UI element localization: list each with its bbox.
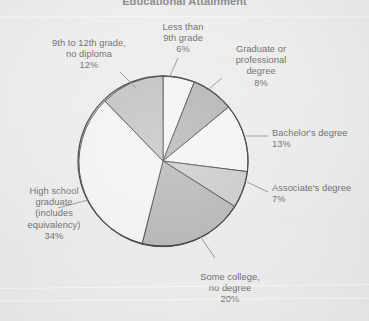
slice-label-graduate-or-professional-degree: Graduate or professional degree 8%: [218, 44, 304, 89]
slice-label-less-than-9th-grade: Less than 9th grade 6%: [144, 22, 222, 56]
leader-line-less-than-9th-grade: [170, 58, 178, 76]
slice-label-high-school-graduate: High school graduate (includes equivalen…: [8, 186, 100, 242]
leader-line-some-college: [200, 236, 215, 258]
slice-label-associates-degree: Associate's degree 7%: [272, 183, 366, 205]
slice-label-bachelors-degree: Bachelor's degree 13%: [272, 128, 364, 150]
slice-label-some-college-no-degree: Some college, no degree 20%: [178, 272, 282, 306]
leader-line-associates: [247, 182, 268, 192]
slice-label-9th-to-12th-grade-no-diploma: 9th to 12th grade, no diploma 12%: [38, 38, 140, 72]
pie-chart-figure: Educational Attainment Less than 9th gra…: [0, 0, 369, 321]
